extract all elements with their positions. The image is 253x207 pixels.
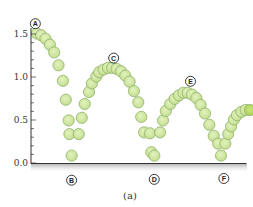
annotation-a: A [30,19,40,29]
ball-positions [31,28,253,161]
y-tick-labels: 0.00.51.01.5 [14,29,29,168]
y-tick-label: 1.0 [14,72,29,82]
annotation-f: F [219,173,229,183]
svg-text:C: C [111,55,116,62]
ball-marker [133,97,144,108]
ball-marker [244,104,253,115]
floor-shadow [31,163,247,173]
ball-marker [53,60,64,71]
ball-marker [73,129,84,140]
y-tick-label: 0.0 [14,158,29,168]
ball-marker [60,94,71,105]
ball-marker [215,150,226,161]
annotation-c: C [109,53,119,63]
figure-caption: (a) [123,190,137,201]
ball-marker [63,115,74,126]
ball-marker [149,150,160,161]
ball-marker [76,112,87,123]
svg-text:E: E [188,78,193,85]
y-tick-label: 0.5 [14,115,29,125]
ball-marker [49,47,60,58]
ball-marker [57,75,68,86]
svg-text:D: D [152,176,157,183]
annotation-e: E [186,76,196,86]
ball-marker [136,111,147,122]
annotation-d: D [149,174,159,184]
ball-marker [66,150,77,161]
ball-marker [79,98,90,109]
svg-text:A: A [33,20,38,27]
ball-marker [128,86,139,97]
y-tick-label: 1.5 [14,29,29,39]
ball-marker [144,128,155,139]
ball-marker [155,127,166,138]
y-axis [31,25,36,164]
bouncing-ball-chart: 0.00.51.01.5 ABCDEF (a) [0,0,253,207]
svg-text:B: B [69,177,74,184]
annotation-b: B [67,175,77,185]
svg-text:F: F [222,175,227,182]
ball-marker [204,119,215,130]
ball-marker [199,108,210,119]
